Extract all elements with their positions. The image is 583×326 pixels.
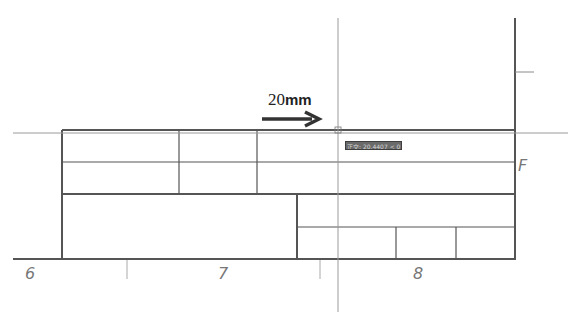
zone-label-f: F [518, 156, 527, 175]
dimension-label: 20mm [268, 90, 312, 110]
crosshair-cursor [13, 18, 568, 312]
dimension-value: 20 [268, 90, 285, 109]
dimension-unit: mm [285, 91, 312, 108]
drawing-canvas[interactable] [0, 0, 583, 326]
zone-label-7: 7 [218, 264, 228, 283]
ortho-tracking-tooltip: 正交: 20.4407 < 0° [345, 141, 402, 150]
zone-label-8: 8 [413, 264, 423, 283]
right-arrow-icon [262, 112, 319, 126]
zone-label-6: 6 [25, 264, 35, 283]
